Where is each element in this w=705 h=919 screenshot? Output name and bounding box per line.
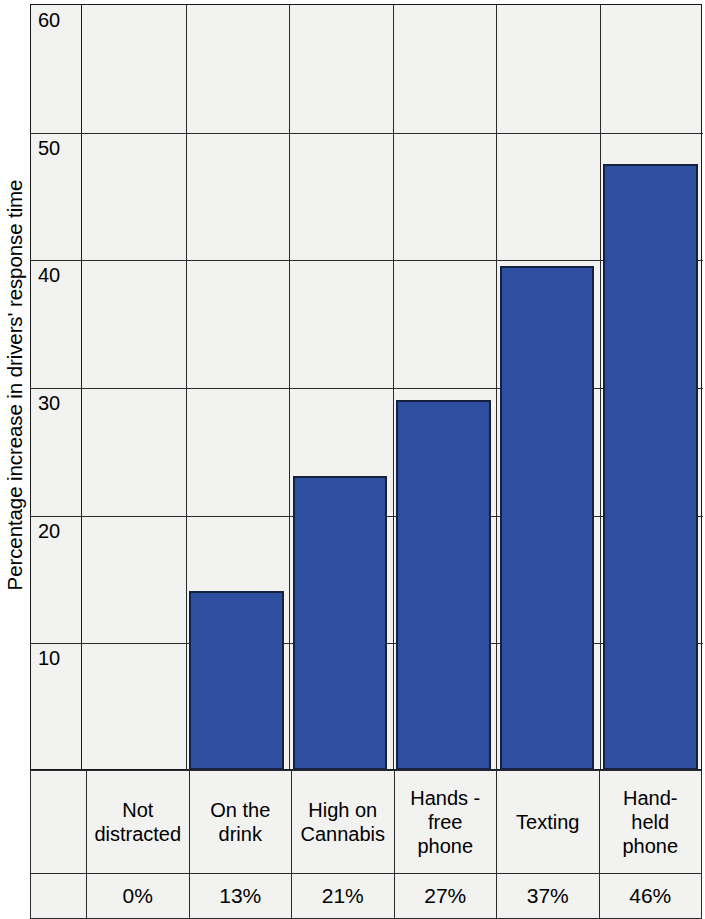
category-label-5-text: Hand-heldphone — [622, 787, 678, 857]
value-cell-0: 0% — [87, 874, 190, 919]
category-label-1-text: On thedrink — [210, 799, 270, 845]
category-label-3-text: Hands -freephone — [410, 787, 480, 857]
table-corner-label — [31, 771, 87, 874]
category-label-4-text: Texting — [516, 811, 579, 833]
value-cell-2: 21% — [292, 874, 395, 919]
bar-5[interactable] — [603, 164, 698, 770]
y-axis-title: Percentage increase in drivers' response… — [0, 0, 30, 770]
category-label-4: Texting — [497, 771, 600, 874]
value-cell-3: 27% — [394, 874, 497, 919]
category-label-row: Notdistracted On thedrink High onCannabi… — [31, 771, 702, 874]
value-cell-4: 37% — [497, 874, 600, 919]
category-label-0-text: Notdistracted — [94, 799, 181, 845]
bar-4[interactable] — [500, 266, 595, 770]
category-label-3: Hands -freephone — [394, 771, 497, 874]
category-label-2-text: High onCannabis — [300, 799, 385, 845]
bar-3[interactable] — [396, 400, 491, 770]
y-axis-title-text: Percentage increase in drivers' response… — [3, 180, 27, 591]
value-cell-5: 46% — [599, 874, 702, 919]
table-corner-value — [31, 874, 87, 919]
value-row: 0% 13% 21% 27% 37% 46% — [31, 874, 702, 919]
category-label-5: Hand-heldphone — [599, 771, 702, 874]
category-label-1: On thedrink — [189, 771, 292, 874]
category-label-2: High onCannabis — [292, 771, 395, 874]
bars-layer — [30, 4, 702, 770]
bar-1[interactable] — [189, 591, 284, 770]
category-label-0: Notdistracted — [87, 771, 190, 874]
category-table: Notdistracted On thedrink High onCannabi… — [30, 770, 702, 910]
value-cell-1: 13% — [189, 874, 292, 919]
bar-2[interactable] — [293, 476, 388, 770]
